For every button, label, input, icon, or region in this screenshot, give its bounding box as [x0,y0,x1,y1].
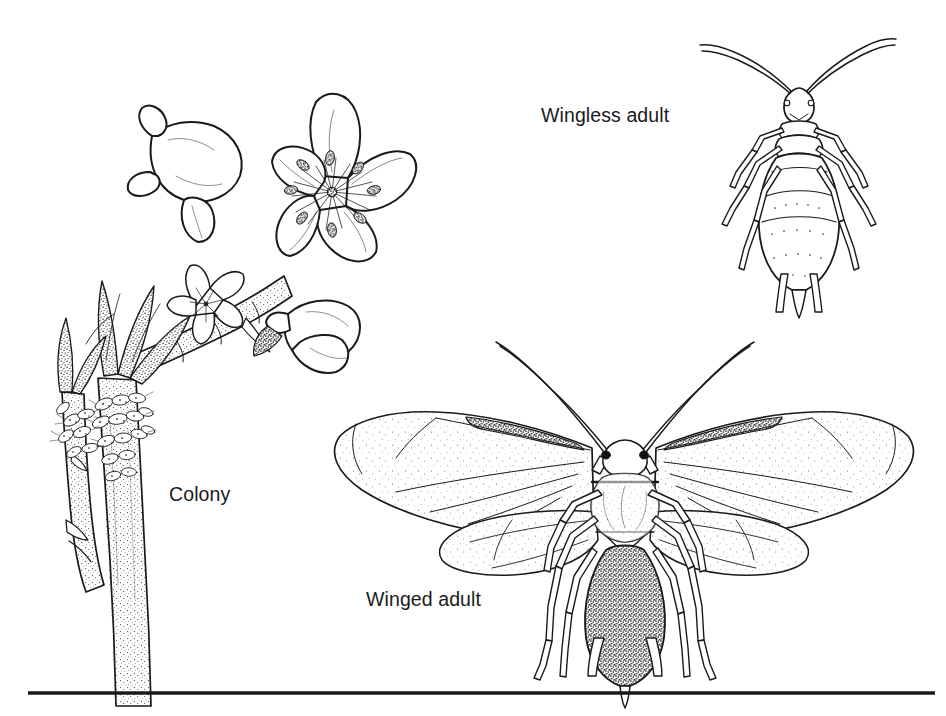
winged-adult-illustration [335,342,914,708]
wingless-adult-illustration [700,39,896,318]
label-colony: Colony [169,483,230,506]
colony-open-blossom [272,94,416,262]
colony-side-blossom [128,106,242,242]
colony-leaves [58,281,190,394]
label-winged-adult: Winged adult [366,588,481,611]
illustration-plate: Wingless adult Colony Winged adult [0,0,946,716]
colony-illustration [50,94,416,706]
label-wingless-adult: Wingless adult [541,104,669,127]
